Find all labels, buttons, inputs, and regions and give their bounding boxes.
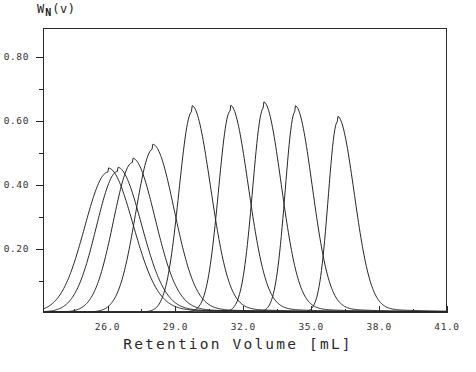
y-axis-title: WN(v) (37, 2, 75, 18)
y-axis-tick-label: 0.20 (0, 243, 29, 254)
chromatogram-curve (44, 158, 446, 312)
y-axis-tick (36, 185, 43, 186)
y-axis-title-main: W (37, 2, 45, 16)
y-axis-tick (36, 57, 43, 58)
x-axis-tick (379, 306, 380, 313)
x-axis-tick (108, 306, 109, 313)
x-axis-tick-label: 32.0 (220, 321, 266, 332)
y-axis-tick-label: 0.60 (0, 115, 29, 126)
x-axis-tick (175, 306, 176, 313)
chromatogram-chart: WN(v) 0.200.400.600.8026.029.032.035.038… (0, 0, 476, 372)
x-axis-tick-label: 29.0 (152, 321, 198, 332)
x-axis-minor-tick (413, 309, 414, 313)
x-axis-tick (243, 306, 244, 313)
x-axis-minor-tick (277, 309, 278, 313)
y-axis-minor-tick (39, 89, 43, 90)
x-axis-tick-label: 41.0 (424, 321, 470, 332)
chromatogram-curve (44, 105, 446, 312)
y-axis-minor-tick (39, 217, 43, 218)
y-axis-minor-tick (39, 153, 43, 154)
y-axis-title-tail: (v) (52, 2, 75, 16)
y-axis-minor-tick (39, 281, 43, 282)
plot-area (43, 28, 447, 313)
chromatogram-curve (44, 102, 446, 312)
chromatogram-curve (44, 167, 446, 312)
y-axis-tick (36, 249, 43, 250)
curves-layer (44, 29, 446, 312)
chromatogram-curve (44, 106, 446, 312)
chromatogram-curve (44, 144, 446, 312)
y-axis-tick-label: 0.80 (0, 51, 29, 62)
x-axis-minor-tick (209, 309, 210, 313)
y-axis-tick-label: 0.40 (0, 179, 29, 190)
x-axis-tick (311, 306, 312, 313)
chromatogram-curve (44, 106, 446, 312)
x-axis-minor-tick (345, 309, 346, 313)
x-axis-tick-label: 26.0 (85, 321, 131, 332)
x-axis-title: Retention Volume [mL] (0, 336, 476, 352)
x-axis-minor-tick (141, 309, 142, 313)
x-axis-minor-tick (74, 309, 75, 313)
x-axis-tick (447, 306, 448, 313)
y-axis-tick (36, 121, 43, 122)
chromatogram-curve (44, 168, 446, 312)
chromatogram-curve (44, 116, 446, 312)
x-axis-tick-label: 35.0 (288, 321, 334, 332)
x-axis-tick-label: 38.0 (356, 321, 402, 332)
